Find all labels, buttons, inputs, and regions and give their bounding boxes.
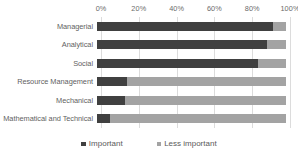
bar-segment-less-important [110, 114, 286, 123]
table-row: Social [0, 54, 290, 73]
legend-label-less-important: Less important [164, 139, 216, 149]
bar-segment-important [97, 114, 110, 123]
bar-segment-less-important [127, 77, 286, 86]
category-label-analytical: Analytical [0, 40, 97, 49]
table-row: Managerial [0, 17, 290, 36]
bar-mechanical [97, 96, 286, 105]
bar-resource-management [97, 77, 286, 86]
x-axis-tick-1: 20% [131, 4, 146, 14]
plot-area: Managerial Analytical Social Resource Ma… [0, 17, 290, 128]
legend-label-important: Important [89, 139, 123, 149]
bar-segment-less-important [267, 40, 286, 49]
chart-legend: Important Less important [0, 136, 298, 152]
gridline-100 [290, 17, 291, 128]
bar-social [97, 59, 286, 68]
bar-mathematical-and-technical [97, 114, 286, 123]
category-label-mathematical-and-technical: Mathematical and Technical [0, 114, 97, 123]
bar-segment-important [97, 59, 258, 68]
legend-entry-important: Important [81, 139, 122, 149]
table-row: Mathematical and Technical [0, 110, 290, 129]
legend-swatch-icon [81, 142, 86, 147]
table-row: Resource Management [0, 73, 290, 92]
bar-segment-less-important [273, 22, 286, 31]
bar-segment-less-important [258, 59, 286, 68]
table-row: Analytical [0, 36, 290, 55]
legend-swatch-icon [157, 142, 162, 147]
category-label-mechanical: Mechanical [0, 96, 97, 105]
x-axis-tick-5: 100% [280, 4, 298, 14]
bar-managerial [97, 22, 286, 31]
bar-segment-important [97, 22, 273, 31]
x-axis-tick-0: 0% [96, 4, 107, 14]
x-axis-tick-3: 60% [207, 4, 222, 14]
table-row: Mechanical [0, 91, 290, 110]
category-label-social: Social [0, 59, 97, 68]
bar-segment-important [97, 77, 127, 86]
category-label-resource-management: Resource Management [0, 77, 97, 86]
category-label-managerial: Managerial [0, 22, 97, 31]
stacked-bar-chart: 0% 20% 40% 60% 80% 100% Managerial Analy… [0, 0, 298, 156]
legend-entry-less-important: Less important [157, 139, 217, 149]
x-axis-tick-labels: 0% 20% 40% 60% 80% 100% [101, 4, 290, 18]
bar-segment-less-important [125, 96, 286, 105]
x-axis-tick-4: 80% [245, 4, 260, 14]
x-axis-tick-2: 40% [169, 4, 184, 14]
bar-segment-important [97, 96, 125, 105]
bar-segment-important [97, 40, 267, 49]
bar-analytical [97, 40, 286, 49]
